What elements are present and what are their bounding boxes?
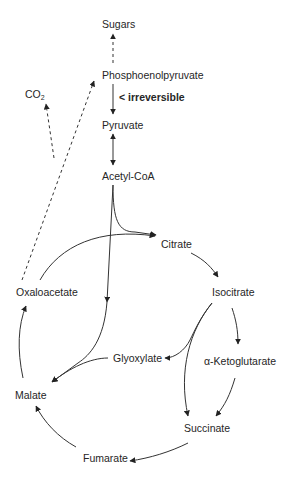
node-fumarate: Fumarate [83, 452, 128, 464]
irreversible-note: < irreversible [119, 91, 185, 103]
arrow-oaa-to-pep [22, 81, 94, 280]
node-co2: CO2 [25, 88, 45, 104]
node-glyoxylate: Glyoxylate [113, 352, 162, 364]
node-oxaloacetate: Oxaloacetate [16, 286, 78, 298]
node-succinate: Succinate [184, 422, 230, 434]
arrow-to-co2 [46, 104, 54, 158]
node-citrate: Citrate [161, 238, 192, 250]
arrow-fumarate-to-malate [36, 406, 76, 447]
pathway-diagram: Sugars Phosphoenolpyruvate < irreversibl… [0, 0, 289, 480]
arrow-akg-to-succinate [216, 378, 235, 416]
arrow-isocitrate-to-akg [232, 308, 238, 344]
arrow-acetylcoa-down [107, 185, 113, 302]
node-isocitrate: Isocitrate [212, 286, 255, 298]
arrow-oaa-to-citrate [40, 234, 155, 280]
arrow-malate-to-oaa [19, 306, 26, 378]
node-pyruvate: Pyruvate [102, 119, 143, 131]
arrow-citrate-to-isocitrate [191, 253, 218, 277]
co2-subscript: 2 [41, 94, 45, 101]
node-sugars: Sugars [102, 18, 135, 30]
node-phosphoenolpyruvate: Phosphoenolpyruvate [102, 69, 204, 81]
node-acetyl-coa: Acetyl-CoA [102, 170, 155, 182]
node-malate: Malate [15, 389, 47, 401]
arrow-succinate-to-fumarate [130, 443, 188, 461]
node-alpha-ketoglutarate: α-Ketoglutarate [204, 355, 276, 367]
arrow-acetylcoa-to-citrate [113, 185, 156, 235]
arrow-acetylcoa-to-malate [52, 302, 107, 382]
co2-base: CO [25, 88, 41, 100]
